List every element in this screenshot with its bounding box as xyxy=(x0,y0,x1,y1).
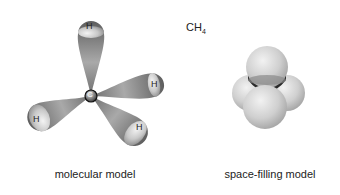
methane-figure xyxy=(0,0,340,195)
space-filling-model xyxy=(232,46,305,129)
chemical-formula: CH4 xyxy=(186,21,206,35)
molecular-model xyxy=(23,21,166,152)
molecular-model-caption: molecular model xyxy=(40,168,150,180)
space-filling-model-caption: space-filling model xyxy=(215,168,325,180)
atom-label-h-right: H xyxy=(151,79,158,89)
atom-label-h-bottom-right: H xyxy=(136,122,143,132)
atom-label-h-left: H xyxy=(33,114,40,124)
bond-lobe-left xyxy=(23,83,97,135)
bond-lobe-top xyxy=(78,21,104,96)
atom-label-c: C xyxy=(87,90,93,99)
formula-subscript: 4 xyxy=(202,28,206,35)
formula-base: CH xyxy=(186,21,202,33)
atom-label-h-top: H xyxy=(86,21,93,31)
